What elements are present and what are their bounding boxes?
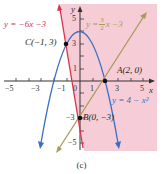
olive-label-prefix: y =	[86, 20, 98, 29]
point-c	[64, 42, 69, 47]
y-tick-label: −3	[66, 114, 75, 122]
fraction-denominator: 2	[100, 25, 104, 32]
x-tick-label: 3	[115, 85, 119, 93]
x-tick-label: −1	[57, 85, 66, 93]
x-tick-label: 1	[90, 85, 94, 93]
olive-label-suffix: x −3	[106, 20, 123, 29]
y-tick-label: −5	[68, 139, 77, 147]
x-tick-label: −3	[31, 85, 40, 93]
point-b-label: B(0, −3)	[83, 113, 114, 122]
red-line-label: y = −6x −3	[4, 20, 46, 29]
point-a-label: A(2, 0)	[117, 66, 142, 75]
origin-label: 0	[73, 85, 77, 93]
point-a	[103, 79, 108, 84]
x-axis-label: x	[149, 86, 153, 95]
x-tick-label: 5	[140, 85, 144, 93]
y-tick-label: 1	[73, 65, 77, 73]
parabola-label: y = 4 − x²	[112, 96, 148, 105]
y-axis-label: y	[71, 5, 75, 14]
point-c-label: C(−1, 3)	[25, 38, 57, 47]
y-tick-label: 5	[72, 15, 76, 23]
figure-caption: (c)	[0, 160, 163, 170]
x-tick-label: −5	[5, 85, 14, 93]
olive-line-bottom-arrow-icon	[56, 146, 62, 153]
olive-line-label: y = 3 2 x −3	[86, 17, 123, 31]
olive-label-fraction: 3 2	[99, 17, 105, 31]
parabola-left-arrow-icon	[38, 141, 44, 149]
point-b	[78, 116, 83, 121]
y-tick-label: 3	[72, 40, 76, 48]
